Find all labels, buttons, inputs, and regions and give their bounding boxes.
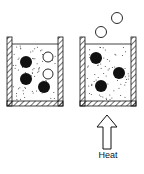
liquid-dot (42, 54, 43, 55)
liquid-dot (114, 67, 115, 68)
liquid-dot (101, 68, 102, 69)
liquid-dot (33, 58, 34, 59)
liquid-dot (128, 73, 129, 74)
liquid-dot (122, 55, 123, 56)
escaping-gas-bubble (96, 27, 107, 38)
liquid-dot (102, 97, 103, 98)
liquid-dot (125, 68, 126, 69)
liquid-dot (106, 99, 107, 100)
liquid-dot (40, 50, 41, 51)
liquid-dot (25, 88, 26, 89)
liquid-dot (18, 88, 19, 89)
liquid-dot (37, 63, 38, 64)
heat-label: Heat (94, 150, 122, 160)
liquid-dot (98, 65, 99, 66)
liquid-dot (109, 94, 110, 95)
liquid-dot (18, 59, 19, 60)
liquid-dot (89, 49, 90, 50)
liquid-dot (124, 85, 125, 86)
liquid-dot (91, 94, 92, 95)
liquid-dot (115, 55, 116, 56)
liquid-dot (89, 93, 90, 94)
solid-particle (20, 73, 32, 85)
liquid-dot (111, 98, 112, 99)
liquid-dot (37, 72, 38, 73)
liquid-dot (53, 92, 54, 93)
left-beaker (7, 37, 63, 106)
liquid-dot (16, 99, 17, 100)
liquid-dot (34, 58, 35, 59)
liquid-dot (103, 58, 104, 59)
solid-particle (90, 52, 102, 64)
liquid-dot (13, 65, 14, 66)
liquid-dot (115, 54, 116, 55)
liquid-dot (41, 50, 42, 51)
gas-bubble (43, 69, 53, 79)
liquid-dot (55, 63, 56, 64)
liquid-dot (38, 69, 39, 70)
liquid-dot (32, 50, 33, 51)
liquid-dot (125, 76, 126, 77)
liquid-dot (32, 91, 33, 92)
liquid-dot (117, 80, 118, 81)
liquid-dot (16, 93, 17, 94)
liquid-dot (16, 47, 17, 48)
liquid-dot (106, 98, 107, 99)
liquid-dot (38, 71, 39, 72)
liquid-dot (54, 98, 55, 99)
liquid-dot (105, 50, 106, 51)
liquid-dot (89, 54, 90, 55)
liquid-dot (39, 67, 40, 68)
liquid-dot (109, 61, 110, 62)
right-beaker-left-wall (80, 37, 85, 106)
liquid-dot (24, 87, 25, 88)
liquid-dot (34, 68, 35, 69)
liquid-dot (23, 90, 24, 91)
liquid-dot (113, 90, 114, 91)
right-beaker-bottom (80, 101, 136, 106)
right-beaker-right-wall (131, 37, 136, 106)
liquid-dot (23, 93, 24, 94)
liquid-dot (15, 68, 16, 69)
liquid-dot (94, 81, 95, 82)
liquid-dot (107, 84, 108, 85)
liquid-dot (19, 87, 20, 88)
liquid-dot (110, 99, 111, 100)
solid-particle (38, 81, 50, 93)
liquid-dot (20, 46, 21, 47)
liquid-dot (32, 58, 33, 59)
left-beaker-bottom (7, 101, 63, 106)
liquid-dot (19, 58, 20, 59)
liquid-dot (25, 72, 26, 73)
liquid-dot (34, 48, 35, 49)
liquid-dot (128, 76, 129, 77)
liquid-dot (109, 68, 110, 69)
liquid-dot (125, 82, 126, 83)
liquid-dot (103, 73, 104, 74)
liquid-dot (99, 95, 100, 96)
heat-arrow-icon (97, 115, 117, 149)
liquid-dot (96, 79, 97, 80)
liquid-dot (107, 59, 108, 60)
liquid-dot (50, 98, 51, 99)
liquid-dot (98, 77, 99, 78)
liquid-dot (24, 97, 25, 98)
liquid-dot (123, 47, 124, 48)
liquid-dot (32, 72, 33, 73)
liquid-dot (112, 67, 113, 68)
liquid-dot (18, 70, 19, 71)
right-beaker (80, 13, 136, 107)
liquid-dot (16, 96, 17, 97)
liquid-dot (94, 74, 95, 75)
diagram-canvas (0, 0, 144, 174)
escaping-gas-bubble (112, 13, 123, 24)
liquid-dot (20, 48, 21, 49)
liquid-dot (55, 56, 56, 57)
liquid-dot (100, 47, 101, 48)
liquid-dot (125, 51, 126, 52)
liquid-dot (33, 93, 34, 94)
liquid-dot (13, 86, 14, 87)
liquid-dot (45, 80, 46, 81)
liquid-dot (91, 84, 92, 85)
solid-particle (95, 80, 107, 92)
